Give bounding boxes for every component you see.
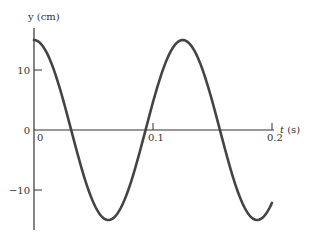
y-tick-label: 10 [17, 65, 30, 76]
y-tick-label: −10 [9, 185, 30, 196]
x-tick-label: 0 [37, 132, 43, 143]
x-tick-label: 0.1 [148, 132, 164, 143]
y-tick-label: 0 [24, 125, 30, 136]
y-axis-label: y (cm) [27, 11, 60, 22]
chart: −10010 00.10.2 y (cm) t (s) [0, 0, 310, 244]
x-axis-label: t (s) [280, 124, 300, 135]
